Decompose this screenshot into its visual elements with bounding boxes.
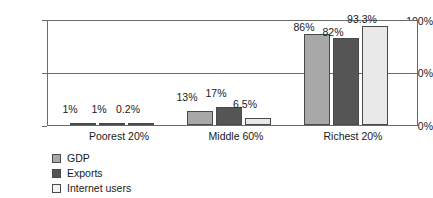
legend-label-internet-users: Internet users — [67, 183, 131, 194]
bar-gdp-poorest — [70, 123, 96, 125]
y-axis-tick-0 — [42, 126, 47, 127]
category-label-richest: Richest 20% — [283, 130, 423, 142]
legend-label-gdp: GDP — [67, 153, 90, 164]
value-label-internet-poorest: 0.2% — [105, 104, 151, 115]
value-label-exports-richest: 82% — [310, 27, 356, 38]
legend-item-exports: Exports — [52, 166, 131, 180]
bar-exports-richest — [333, 38, 359, 125]
bar-exports-poorest — [99, 123, 125, 125]
bar-internet-middle — [245, 118, 271, 125]
bar-internet-richest — [362, 26, 388, 125]
bar-internet-poorest — [128, 123, 154, 125]
legend-swatch-icon-exports — [52, 169, 61, 178]
bar-gdp-middle — [187, 111, 213, 125]
legend-item-internet-users: Internet users — [52, 181, 131, 195]
value-label-internet-richest: 93.3% — [339, 14, 385, 25]
legend: GDP Exports Internet users — [52, 151, 131, 196]
grouped-bar-chart: 100% 50% 0% 1% 1% 0.2% 13% 17% 6.5% 86% — [0, 0, 433, 198]
bar-gdp-richest — [304, 34, 330, 125]
legend-swatch-icon-gdp — [52, 154, 61, 163]
value-label-internet-middle: 6.5% — [222, 99, 268, 110]
legend-item-gdp: GDP — [52, 151, 131, 165]
legend-swatch-icon-internet-users — [52, 184, 61, 193]
legend-label-exports: Exports — [67, 168, 103, 179]
